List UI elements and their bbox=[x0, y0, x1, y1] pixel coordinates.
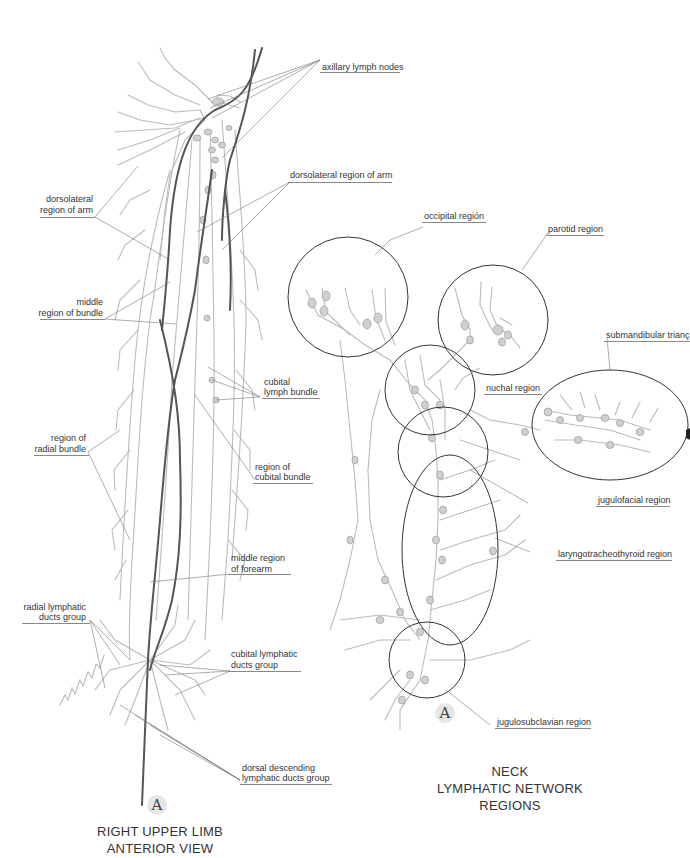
parotid-circle bbox=[438, 265, 548, 375]
underline bbox=[320, 72, 400, 73]
label-occipital-region: occipital región bbox=[424, 211, 484, 222]
label-nuchal-region: nuchal region bbox=[486, 383, 540, 394]
underline bbox=[40, 217, 95, 218]
label-jugulofacial-region: jugulofacial region bbox=[598, 495, 671, 506]
laryngotracheothyroid-ellipse bbox=[402, 455, 498, 645]
figure-letter-limb: A bbox=[147, 795, 167, 815]
label-cubital-lymph-2: lymph bundle bbox=[264, 387, 318, 398]
underline bbox=[40, 319, 105, 320]
label-dorsal-descending-2: lymphatic ducts group bbox=[242, 773, 330, 784]
anatomy-plate: axillary lymph nodes dorsolateral region… bbox=[0, 0, 690, 858]
underline bbox=[604, 341, 690, 342]
underline bbox=[262, 398, 320, 399]
label-dorsolateral-left-2: region of arm bbox=[20, 205, 93, 216]
limb-title-line2: ANTERIOR VIEW bbox=[70, 840, 250, 857]
neck-region-outlines bbox=[288, 237, 688, 698]
limb-title: RIGHT UPPER LIMB ANTERIOR VIEW bbox=[70, 823, 250, 857]
occipital-circle bbox=[288, 237, 408, 357]
label-parotid-region: parotid region bbox=[548, 224, 603, 235]
neck-title-line2: LYMPHATIC NETWORK REGIONS bbox=[420, 780, 600, 814]
limb-lymph-network bbox=[60, 48, 262, 730]
label-radial-bundle-2: radial bundle bbox=[10, 444, 86, 455]
underline bbox=[288, 182, 392, 183]
neck-nodes bbox=[308, 291, 644, 704]
neck-title-line1: NECK bbox=[420, 763, 600, 780]
label-radial-bundle-1: region of bbox=[10, 433, 86, 444]
neck-title: NECK LYMPHATIC NETWORK REGIONS bbox=[420, 763, 600, 814]
underline bbox=[596, 506, 670, 507]
label-jugulosubclavian-region: jugulosubclavian region bbox=[497, 717, 591, 728]
underline bbox=[240, 784, 332, 785]
label-radial-ducts-2: ducts group bbox=[10, 612, 86, 623]
underline bbox=[253, 483, 313, 484]
figure-letter-neck: A bbox=[435, 703, 455, 723]
illustration bbox=[0, 0, 690, 858]
underline bbox=[229, 671, 301, 672]
underline bbox=[229, 574, 291, 575]
underline bbox=[484, 394, 542, 395]
limb-title-line1: RIGHT UPPER LIMB bbox=[70, 823, 250, 840]
underline bbox=[34, 455, 89, 456]
label-dorsolateral-left-1: dorsolateral bbox=[20, 194, 93, 205]
underline bbox=[546, 235, 604, 236]
label-middle-bundle-2: region of bundle bbox=[30, 308, 103, 319]
label-cubital-ducts-2: ducts group bbox=[231, 660, 278, 671]
submandibular-ellipse bbox=[532, 370, 688, 480]
edge-marker bbox=[686, 428, 690, 440]
underline bbox=[422, 222, 486, 223]
label-cubital-bundle-2: cubital bundle bbox=[255, 472, 311, 483]
label-dorsolateral-right: dorsolateral region of arm bbox=[290, 170, 393, 181]
jugulofacial-circle bbox=[398, 407, 488, 497]
label-laryngotracheothyroid-region: laryngotracheothyroid region bbox=[558, 549, 672, 560]
label-middle-forearm-1: middle region bbox=[231, 553, 285, 564]
underline bbox=[495, 728, 591, 729]
label-cubital-ducts-1: cubital lymphatic bbox=[231, 649, 298, 660]
underline bbox=[556, 560, 672, 561]
label-submandibular-triangle: submandibular trianç bbox=[606, 330, 690, 341]
underline bbox=[22, 623, 90, 624]
label-middle-bundle-1: middle bbox=[30, 297, 103, 308]
